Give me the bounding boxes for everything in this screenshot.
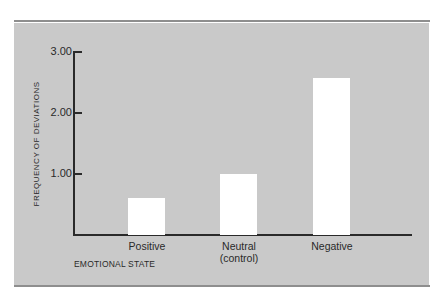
category-label-line: Positive (107, 240, 187, 252)
bar-positive (128, 198, 165, 235)
category-label-positive: Positive (107, 240, 187, 252)
y-tick-label-3: 3.00 (34, 45, 72, 57)
top-rule (14, 20, 430, 22)
bottom-rule (14, 285, 430, 287)
y-tick-2 (74, 112, 82, 114)
x-axis-label: EMOTIONAL STATE (74, 259, 155, 269)
y-axis-label: FREQUENCY OF DEVIATIONS (32, 82, 41, 207)
category-label-line: Negative (292, 240, 372, 252)
category-label-negative: Negative (292, 240, 372, 252)
y-tick-3 (74, 51, 82, 53)
category-label-line: Neutral (199, 240, 279, 252)
category-label-line: (control) (199, 252, 279, 264)
bar-neutral (220, 174, 257, 235)
category-label-neutral: Neutral (control) (199, 240, 279, 264)
y-axis (73, 51, 75, 236)
bar-negative (313, 78, 350, 235)
y-tick-1 (74, 173, 82, 175)
y-tick-label-1: 1.00 (34, 167, 72, 179)
y-tick-label-2: 2.00 (34, 106, 72, 118)
